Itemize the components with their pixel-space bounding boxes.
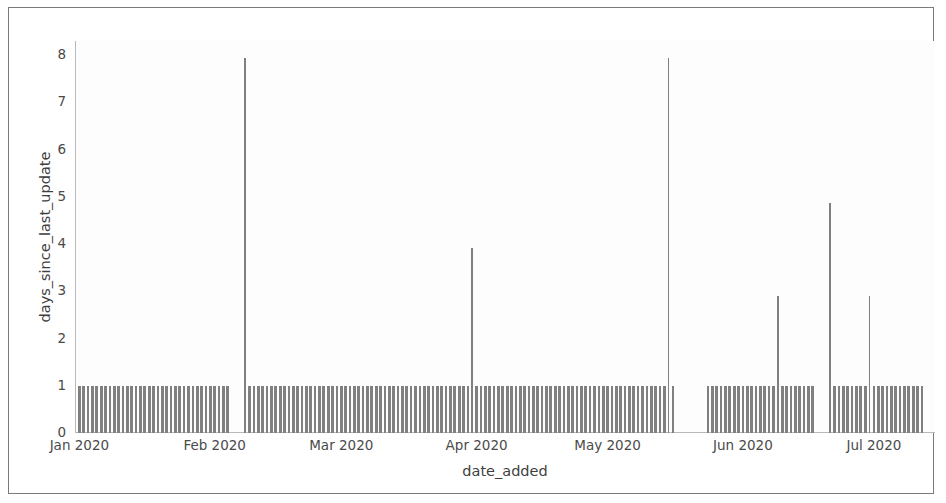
bar: [750, 386, 753, 433]
chart-figure: days_since_last_update 012345678 Jan 202…: [0, 0, 946, 503]
x-tick-label: Feb 2020: [183, 439, 246, 453]
bar: [318, 386, 321, 433]
bar: [366, 386, 369, 433]
bar: [615, 386, 618, 433]
bar: [659, 386, 662, 433]
bar: [205, 386, 208, 433]
bar: [462, 386, 465, 433]
bar: [401, 386, 404, 433]
bar: [104, 386, 107, 433]
bar: [174, 386, 177, 433]
bar: [733, 386, 736, 433]
bar: [226, 386, 229, 433]
bar: [423, 386, 426, 433]
bar: [541, 386, 544, 433]
bar: [580, 386, 583, 433]
bar: [877, 386, 880, 433]
bar: [846, 386, 849, 433]
bar: [519, 386, 522, 433]
bar: [432, 386, 435, 433]
bar: [593, 386, 596, 433]
bar: [336, 386, 339, 433]
bar: [244, 58, 246, 433]
bar: [619, 386, 622, 433]
bar: [506, 386, 509, 433]
bar: [292, 386, 295, 433]
bar: [894, 386, 897, 433]
bar: [571, 386, 574, 433]
bar: [296, 386, 299, 433]
bar: [283, 386, 286, 433]
bar: [903, 386, 906, 433]
bar: [261, 386, 264, 433]
bar: [724, 386, 727, 433]
bar: [248, 386, 251, 433]
bar: [458, 386, 461, 433]
bar: [510, 386, 513, 433]
bar: [536, 386, 539, 433]
bar: [611, 386, 614, 433]
bar: [493, 386, 496, 433]
bar: [178, 386, 181, 433]
bar: [388, 386, 391, 433]
bar: [528, 386, 531, 433]
y-tick-label: 2: [57, 332, 66, 346]
bar-series: [75, 41, 935, 433]
y-tick-label: 6: [57, 143, 66, 157]
x-axis-label: date_added: [75, 463, 935, 479]
bar: [165, 386, 168, 433]
bar: [109, 386, 112, 433]
bar: [790, 386, 793, 433]
bar: [78, 386, 81, 433]
bar: [602, 386, 605, 433]
bar: [641, 386, 644, 433]
bar: [288, 386, 291, 433]
bar: [515, 386, 518, 433]
y-tick-label: 7: [57, 96, 66, 110]
bar: [117, 386, 120, 433]
bar: [135, 386, 138, 433]
bar: [829, 203, 831, 433]
bar: [301, 386, 304, 433]
bar: [453, 386, 456, 433]
bar: [650, 386, 653, 433]
figure-frame: days_since_last_update 012345678 Jan 202…: [8, 7, 934, 494]
bar: [720, 386, 723, 433]
bar: [440, 386, 443, 433]
y-tick-label: 4: [57, 237, 66, 251]
bar: [606, 386, 609, 433]
bar: [851, 386, 854, 433]
bar: [554, 386, 557, 433]
bar: [912, 386, 915, 433]
bar: [715, 386, 718, 433]
bar: [838, 386, 841, 433]
bar: [711, 386, 714, 433]
bar: [488, 386, 491, 433]
bar: [322, 386, 325, 433]
bar: [549, 386, 552, 433]
bar: [497, 386, 500, 433]
bar: [344, 386, 347, 433]
bar: [480, 386, 483, 433]
bar: [187, 386, 190, 433]
bar: [899, 386, 902, 433]
bar: [855, 386, 858, 433]
bar: [357, 386, 360, 433]
bar: [807, 386, 810, 433]
bar: [405, 386, 408, 433]
bar: [777, 296, 779, 433]
bar: [890, 386, 893, 433]
x-tick-label: Jun 2020: [713, 439, 773, 453]
x-tick-label: Mar 2020: [309, 439, 373, 453]
bar: [270, 386, 273, 433]
bar: [646, 386, 649, 433]
bar: [668, 58, 670, 433]
bar: [122, 386, 125, 433]
bar: [279, 386, 282, 433]
bar: [798, 386, 801, 433]
bar: [886, 386, 889, 433]
bar: [864, 386, 867, 433]
bar: [384, 386, 387, 433]
bar: [266, 386, 269, 433]
bar: [794, 386, 797, 433]
